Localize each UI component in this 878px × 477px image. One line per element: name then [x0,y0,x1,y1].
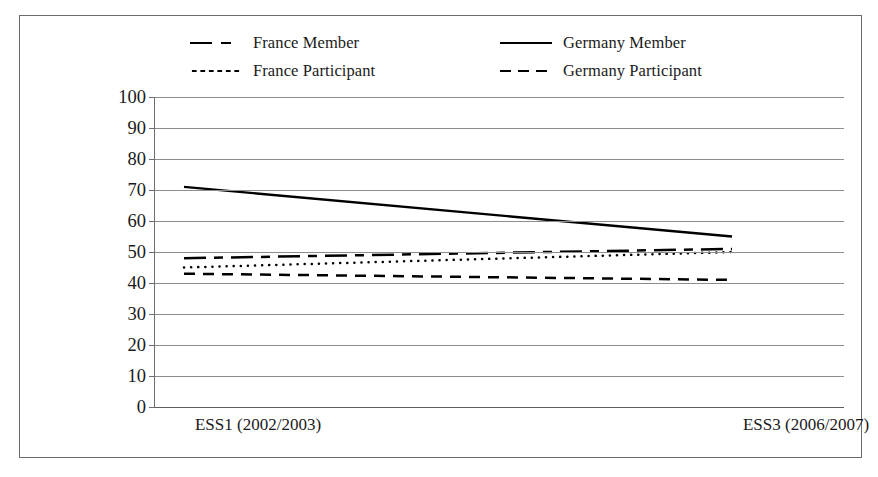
x-axis-tick-label: ESS1 (2002/2003) [195,415,321,435]
gridline [154,221,844,222]
legend-label: Germany Member [563,33,686,53]
gridline [154,97,844,98]
dotted-line-icon [190,64,242,78]
y-axis-tick-mark [149,345,155,346]
legend-row-2b: Germany Participant [500,58,702,84]
legend-label: France Member [253,33,359,53]
y-axis-tick-mark [149,97,155,98]
y-axis-tick-label: 40 [98,274,146,292]
y-axis-tick-mark [149,252,155,253]
y-axis-tick-label: 80 [98,150,146,168]
legend-item-france-member: France Member [190,30,359,56]
series-line-france-participant [184,252,732,268]
legend-row-1: France Member [190,30,359,56]
y-axis-tick-label: 20 [98,336,146,354]
series-lines [154,97,844,422]
series-line-germany-member [184,187,732,237]
y-axis-tick-label: 70 [98,181,146,199]
y-axis-tick-mark [149,283,155,284]
dash-dot-line-icon [190,36,242,50]
legend-item-germany-member: Germany Member [500,30,686,56]
y-axis-tick-mark [149,376,155,377]
legend-label: France Participant [253,61,375,81]
y-axis-labels: 1009080706050403020100 [98,97,150,422]
gridline [154,252,844,253]
y-axis-tick-label: 0 [98,398,146,416]
legend-label: Germany Participant [563,61,702,81]
gridline [154,314,844,315]
dashed-line-icon [500,64,552,78]
legend-item-germany-participant: Germany Participant [500,58,702,84]
y-axis-tick-label: 90 [98,119,146,137]
x-axis-labels: ESS1 (2002/2003)ESS3 (2006/2007) [154,415,844,455]
y-axis-tick-mark [149,128,155,129]
solid-line-icon [500,36,552,50]
y-axis-tick-label: 60 [98,212,146,230]
y-axis-tick-label: 10 [98,367,146,385]
legend-row-2: France Participant [190,58,375,84]
y-axis-tick-mark [149,159,155,160]
axes [154,97,844,422]
y-axis-tick-label: 100 [98,88,146,106]
y-axis-tick-mark [149,314,155,315]
gridline [154,159,844,160]
y-axis-tick-mark [149,190,155,191]
y-axis-tick-label: 50 [98,243,146,261]
y-axis-tick-label: 30 [98,305,146,323]
gridline [154,376,844,377]
x-axis-line [154,407,844,408]
y-axis-tick-mark [149,407,155,408]
gridline [154,345,844,346]
gridline [154,190,844,191]
legend-item-france-participant: France Participant [190,58,375,84]
x-axis-tick-label: ESS3 (2006/2007) [743,415,869,435]
chart-legend: France Member Germany Member France Part… [190,30,810,86]
plot-area: 1009080706050403020100 ESS1 (2002/2003)E… [98,97,844,422]
gridline [154,128,844,129]
series-line-germany-participant [184,274,732,280]
legend-row-1b: Germany Member [500,30,686,56]
chart-frame: France Member Germany Member France Part… [19,15,862,458]
gridline [154,283,844,284]
y-axis-tick-mark [149,221,155,222]
series-line-france-member [184,249,732,258]
